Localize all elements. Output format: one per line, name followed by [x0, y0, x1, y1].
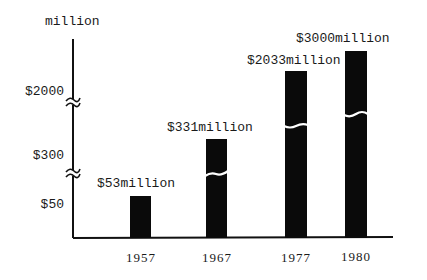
bar-break-1980 — [344, 112, 368, 116]
value-label-1980: $3000million — [296, 31, 390, 46]
bar-break-1967 — [205, 171, 228, 176]
x-tick-1977: 1977 — [271, 250, 321, 266]
x-tick-1957: 1957 — [116, 250, 166, 266]
bar-break-1977 — [284, 124, 308, 127]
value-label-1967: $331million — [167, 120, 253, 135]
value-label-1957: $53million — [97, 176, 175, 191]
x-tick-1980: 1980 — [331, 249, 381, 265]
x-tick-1967: 1967 — [192, 250, 242, 266]
value-label-1977: $2033million — [247, 53, 341, 68]
